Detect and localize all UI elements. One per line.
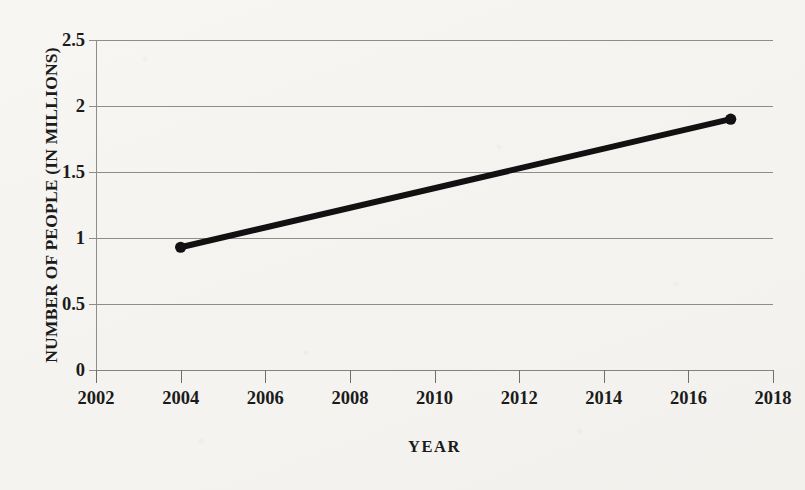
series-line <box>181 119 731 247</box>
series-layer <box>96 40 773 370</box>
plot-area: 00.511.522.5 200220042006200820102012201… <box>96 40 773 370</box>
y-tick-label-1: 1 <box>76 229 85 248</box>
x-tick-mark-2016 <box>688 370 689 383</box>
x-axis-title: YEAR <box>96 437 773 457</box>
y-axis-title: NUMBER OF PEOPLE (IN MILLIONS) <box>34 5 68 405</box>
x-tick-mark-2004 <box>181 370 182 383</box>
y-tick-mark-0.5 <box>89 304 96 305</box>
line-chart: NUMBER OF PEOPLE (IN MILLIONS) 00.511.52… <box>0 0 805 490</box>
y-tick-label-0: 0 <box>76 361 85 380</box>
y-tick-mark-0 <box>89 370 96 371</box>
y-tick-mark-1.5 <box>89 172 96 173</box>
x-tick-label-2010: 2010 <box>416 389 453 408</box>
x-tick-label-2006: 2006 <box>247 389 284 408</box>
x-tick-mark-2014 <box>604 370 605 383</box>
x-tick-label-2012: 2012 <box>501 389 538 408</box>
y-tick-label-1.5: 1.5 <box>62 163 85 182</box>
y-tick-mark-1 <box>89 238 96 239</box>
x-tick-label-2016: 2016 <box>670 389 707 408</box>
x-tick-mark-2002 <box>96 370 97 383</box>
x-tick-mark-2006 <box>265 370 266 383</box>
series-number-of-people <box>175 114 736 253</box>
y-tick-mark-2.5 <box>89 40 96 41</box>
y-tick-label-2: 2 <box>76 97 85 116</box>
x-tick-label-2004: 2004 <box>162 389 199 408</box>
x-tick-mark-2012 <box>519 370 520 383</box>
x-tick-label-2002: 2002 <box>78 389 115 408</box>
x-tick-label-2014: 2014 <box>585 389 622 408</box>
y-tick-mark-2 <box>89 106 96 107</box>
data-point-marker <box>725 114 736 125</box>
data-point-marker <box>175 242 186 253</box>
x-tick-label-2008: 2008 <box>331 389 368 408</box>
x-tick-mark-2010 <box>435 370 436 383</box>
y-tick-label-2.5: 2.5 <box>62 31 85 50</box>
x-tick-mark-2008 <box>350 370 351 383</box>
y-tick-label-0.5: 0.5 <box>62 295 85 314</box>
x-tick-label-2018: 2018 <box>755 389 792 408</box>
x-tick-mark-2018 <box>773 370 774 383</box>
